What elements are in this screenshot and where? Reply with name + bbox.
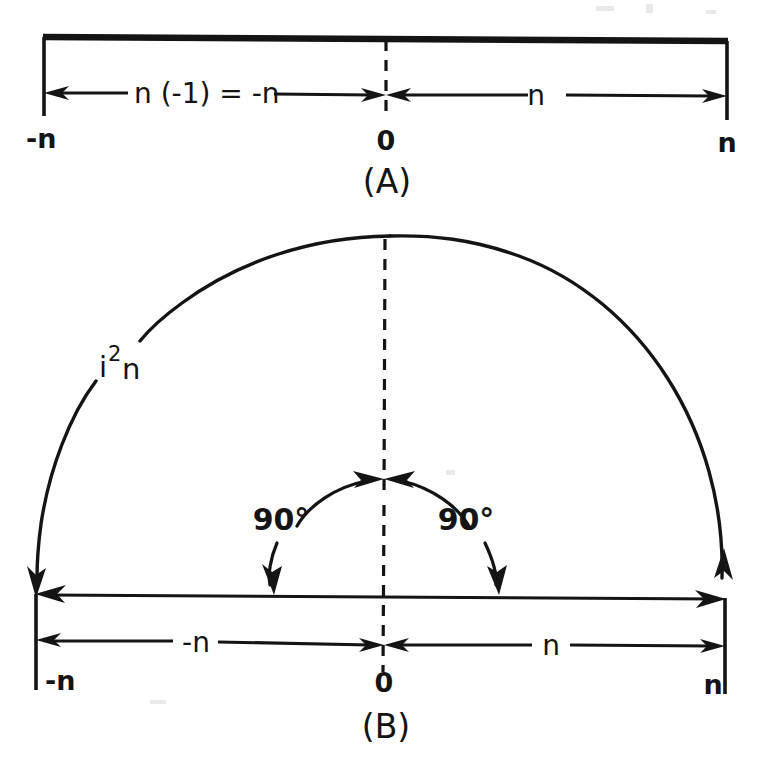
panel-a-axis-label-center: 0 — [377, 125, 396, 156]
panel-b-axis-label-left: -n — [45, 665, 75, 696]
panel-b-arc-lower-left — [37, 381, 96, 578]
panel-b-angle-arc-left-arrowhead — [353, 471, 384, 488]
panel-b-caption: (B) — [362, 707, 410, 746]
panel-a-left-dim-line-outer — [274, 94, 372, 95]
panel-a-axis-label-right: n — [717, 127, 736, 158]
panel-b-left-dim-line-outer — [218, 642, 370, 645]
figure-diagram: n (-1) = -n n -n 0 n (A) — [0, 0, 768, 776]
panel-b-arc-label-base: i — [99, 350, 107, 384]
panel-b-axis-label-right: n — [703, 669, 722, 700]
panel-a: n (-1) = -n n -n 0 n (A) — [26, 37, 737, 201]
panel-b-left-dim-label: -n — [182, 626, 210, 659]
panel-b-arc-label: i 2 n — [99, 342, 140, 386]
panel-a-right-dim-line-outer — [566, 95, 712, 96]
panel-b-arc-label-exponent: 2 — [108, 342, 121, 366]
panel-b-arc-label-operand: n — [122, 352, 140, 386]
panel-a-right-dim-label: n — [527, 79, 545, 112]
figure-root: n (-1) = -n n -n 0 n (A) — [0, 0, 768, 776]
panel-b-right-dim-label: n — [542, 629, 560, 662]
panel-b-arc-top-left — [140, 236, 390, 341]
panel-b-angle-leader-right-arrowhead — [487, 565, 507, 595]
panel-b-right-dim-line-outer — [570, 645, 710, 646]
panel-b-angle-label-left: 90° — [253, 502, 310, 537]
panel-a-left-dim-label: n (-1) = -n — [134, 77, 280, 110]
panel-b-angle-label-right: 90° — [438, 502, 495, 537]
panel-b: i 2 n 90° 90° — [27, 236, 733, 746]
panel-b-angle-leader-left-arrowhead — [262, 564, 282, 595]
panel-a-caption: (A) — [363, 162, 411, 201]
panel-b-main-axis — [48, 595, 716, 599]
panel-b-angle-arc-right-arrowhead — [384, 471, 415, 488]
panel-b-center-dashed-upper — [384, 239, 385, 498]
panel-b-axis-label-center: 0 — [375, 667, 394, 698]
panel-b-center-dashed-lower — [383, 505, 384, 672]
panel-a-axis-label-left: -n — [26, 123, 56, 154]
